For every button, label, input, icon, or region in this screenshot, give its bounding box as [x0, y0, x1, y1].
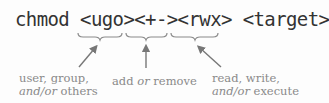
- annotation-ugo-line2: and/or others: [19, 85, 98, 98]
- annotation-ugo: user, group, and/or others: [19, 72, 98, 98]
- annotation-perms: read, write, and/or execute: [212, 72, 299, 98]
- brace-ugo-icon: [78, 33, 122, 40]
- annotation-op: add or remove: [112, 75, 197, 88]
- brace-perms-icon: [171, 33, 218, 40]
- brace-op-icon: [126, 33, 167, 40]
- arrow-perms-icon: [200, 48, 221, 67]
- arrow-ugo-icon: [79, 48, 95, 67]
- annotation-perms-line2: and/or execute: [212, 85, 299, 98]
